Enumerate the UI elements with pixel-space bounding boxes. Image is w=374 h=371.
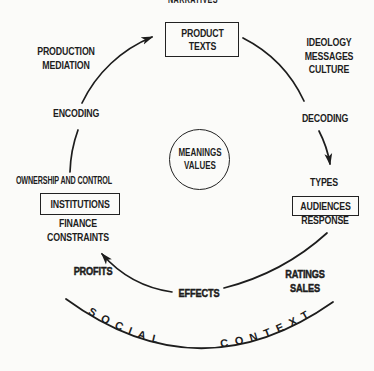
response-label: RESPONSE	[301, 214, 349, 228]
ratings-sales-label: RATINGS SALES	[285, 268, 325, 295]
effects-label: EFFECTS	[179, 287, 220, 301]
profits-label: PROFITS	[74, 265, 113, 279]
diagram-canvas: SOCIAL CONTEXT NARRATIVES PRODUCT TEXTS …	[0, 0, 374, 371]
social-arc-word-right: CONTEXT	[219, 305, 316, 350]
audiences-box: AUDIENCES	[292, 196, 359, 216]
production-mediation-label: PRODUCTION MEDIATION	[37, 45, 95, 72]
social-arc-word-left: SOCIAL	[87, 305, 167, 347]
institutions-label: INSTITUTIONS	[50, 198, 109, 211]
arrow-effects-to-institutions	[102, 254, 172, 292]
institutions-box: INSTITUTIONS	[40, 193, 120, 215]
arc-product-texts-to-decoding	[243, 38, 304, 101]
ownership-and-control-label: OWNERSHIP AND CONTROL	[16, 174, 112, 188]
arrow-decoding-to-audiences	[319, 131, 330, 164]
arc-institutions-to-encoding	[70, 130, 78, 172]
finance-constraints-label: FINANCE CONSTRAINTS	[47, 217, 109, 244]
audiences-label: AUDIENCES	[300, 200, 350, 213]
encoding-label: ENCODING	[53, 107, 99, 121]
top-clipped-label: NARRATIVES	[168, 0, 218, 6]
types-label: TYPES	[310, 176, 338, 190]
meanings-values-label: MEANINGS VALUES	[178, 147, 221, 172]
ideology-messages-culture-label: IDEOLOGY MESSAGES CULTURE	[305, 36, 354, 77]
product-texts-box: PRODUCT TEXTS	[165, 22, 239, 57]
product-texts-label: PRODUCT TEXTS	[181, 27, 223, 53]
decoding-label: DECODING	[302, 112, 348, 126]
meanings-values-circle: MEANINGS VALUES	[169, 129, 230, 190]
